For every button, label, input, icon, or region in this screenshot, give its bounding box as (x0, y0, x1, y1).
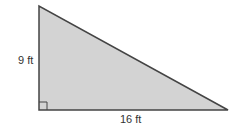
horizontal-leg-label: 16 ft (120, 113, 141, 125)
triangle-diagram (0, 0, 230, 128)
right-triangle (39, 6, 228, 110)
vertical-leg-label: 9 ft (18, 54, 33, 66)
